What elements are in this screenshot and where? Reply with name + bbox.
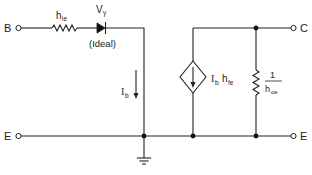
terminal-base	[16, 25, 21, 30]
svg-text:1: 1	[270, 70, 275, 80]
label-ideal: (Ideal)	[89, 38, 116, 49]
diode-icon	[97, 22, 106, 34]
label-collector: C	[300, 22, 308, 34]
circuit-diagram: B E C E h ie V γ (Ideal) I b I b h fe 1 …	[0, 0, 312, 175]
label-base: B	[4, 22, 11, 34]
junction-dot	[191, 134, 196, 139]
terminal-emitter-left	[16, 133, 21, 138]
svg-text:fe: fe	[228, 79, 234, 86]
ground-icon	[137, 136, 151, 164]
label-1-over-hoe: 1 h oe	[265, 70, 282, 95]
label-hie: h ie	[56, 10, 67, 22]
svg-text:I: I	[121, 86, 124, 97]
svg-text:V: V	[96, 4, 103, 15]
label-emitter-right: E	[300, 130, 307, 142]
terminal-emitter-right	[291, 133, 296, 138]
resistor-hie-icon	[52, 25, 77, 31]
svg-text:h: h	[222, 73, 228, 84]
svg-text:h: h	[56, 10, 62, 21]
label-ib: I b	[121, 86, 129, 99]
svg-text:oe: oe	[271, 89, 278, 95]
dependent-current-source-icon	[180, 61, 206, 93]
label-emitter-left: E	[4, 130, 11, 142]
svg-text:γ: γ	[103, 9, 107, 17]
junction-dot	[254, 26, 259, 31]
svg-text:ie: ie	[62, 15, 67, 22]
label-vgamma: V γ	[96, 4, 107, 17]
svg-text:h: h	[265, 84, 270, 94]
svg-text:b: b	[215, 79, 219, 86]
label-ib-hfe: I b h fe	[211, 73, 234, 86]
resistor-hoe-icon	[253, 70, 259, 95]
junction-dot	[254, 134, 259, 139]
arrow-down-icon	[134, 70, 139, 99]
junction-dot	[142, 134, 147, 139]
terminal-collector	[291, 25, 296, 30]
svg-text:I: I	[211, 73, 214, 84]
svg-text:b: b	[125, 92, 129, 99]
